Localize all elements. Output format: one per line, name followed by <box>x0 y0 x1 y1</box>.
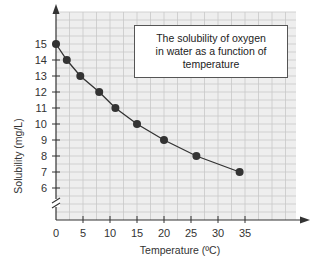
y-tick-label: 9 <box>41 134 47 146</box>
x-tick-label: 20 <box>158 227 170 239</box>
y-tick-label: 10 <box>35 118 47 130</box>
y-tick-label: 14 <box>35 54 47 66</box>
data-point <box>192 152 200 160</box>
y-tick-label: 7 <box>41 166 47 178</box>
y-tick-label: 13 <box>35 70 47 82</box>
data-point <box>236 168 244 176</box>
x-tick-label: 30 <box>212 227 224 239</box>
chart-container: 678910111213141505101520253035 The solub… <box>0 0 318 263</box>
data-point <box>111 104 119 112</box>
data-point <box>76 72 84 80</box>
x-tick-label: 10 <box>104 227 116 239</box>
x-tick-label: 15 <box>131 227 143 239</box>
data-point <box>63 56 71 64</box>
x-tick-label: 0 <box>53 227 59 239</box>
x-axis-label: Temperature (ºC) <box>120 244 240 256</box>
x-axis-arrow-icon <box>300 217 310 224</box>
y-axis-arrow-icon <box>53 4 60 14</box>
chart-title: The solubility of oxygen in water as a f… <box>156 32 267 71</box>
y-tick-label: 8 <box>41 150 47 162</box>
y-tick-label: 15 <box>35 38 47 50</box>
x-tick-label: 35 <box>239 227 251 239</box>
y-axis-label: Solubility (mg/L) <box>12 116 24 196</box>
y-tick-label: 11 <box>36 102 47 114</box>
data-point <box>160 136 168 144</box>
x-tick-label: 5 <box>80 227 86 239</box>
data-point <box>95 88 103 96</box>
data-point <box>133 120 141 128</box>
y-tick-label: 12 <box>35 86 47 98</box>
chart-title-box: The solubility of oxygen in water as a f… <box>134 25 288 78</box>
y-tick-label: 6 <box>41 182 47 194</box>
data-point <box>52 40 60 48</box>
x-tick-label: 25 <box>185 227 197 239</box>
